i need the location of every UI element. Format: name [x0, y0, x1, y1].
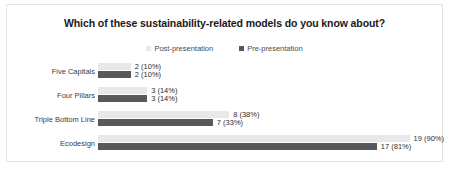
bar-group-five-capitals: 2 (10%) 2 (10%) [98, 59, 442, 83]
bar-post-four-pillars[interactable] [98, 87, 147, 94]
bar-line-pre-four-pillars: 3 (14%) [98, 95, 177, 102]
category-label-five-capitals: Five Capitals [7, 59, 95, 83]
legend-item-post-presentation[interactable]: Post-presentation [146, 44, 213, 53]
chart-legend: Post-presentation Pre-presentation [7, 44, 442, 53]
chart-title: Which of these sustainability-related mo… [7, 17, 442, 29]
legend-item-pre-presentation[interactable]: Pre-presentation [239, 44, 302, 53]
bar-line-post-five-capitals: 2 (10%) [98, 63, 161, 70]
bar-post-five-capitals[interactable] [98, 63, 131, 70]
legend-swatch-post-presentation [146, 46, 151, 51]
chart-row-triple-bottom-line: Triple Bottom Line 8 (38%) 7 (33%) [7, 107, 442, 131]
chart-container: Which of these sustainability-related mo… [6, 4, 443, 162]
bar-value-post-ecodesign: 19 (90%) [414, 135, 444, 142]
bar-pre-five-capitals[interactable] [98, 71, 131, 78]
bar-line-post-ecodesign: 19 (90%) [98, 135, 444, 142]
chart-row-four-pillars: Four Pillars 3 (14%) 3 (14%) [7, 83, 442, 107]
bar-line-pre-five-capitals: 2 (10%) [98, 71, 161, 78]
chart-row-ecodesign: Ecodesign 19 (90%) 17 (81%) [7, 131, 442, 155]
legend-label-pre-presentation: Pre-presentation [247, 44, 302, 53]
bar-group-ecodesign: 19 (90%) 17 (81%) [98, 131, 442, 155]
bar-value-pre-ecodesign: 17 (81%) [381, 143, 411, 150]
category-label-triple-bottom-line: Triple Bottom Line [7, 107, 95, 131]
bar-line-pre-triple-bottom-line: 7 (33%) [98, 119, 243, 126]
bar-line-post-four-pillars: 3 (14%) [98, 87, 177, 94]
chart-plot-area: Five Capitals 2 (10%) 2 (10%) Four Pilla… [7, 59, 442, 155]
bar-post-ecodesign[interactable] [98, 135, 410, 142]
bar-group-four-pillars: 3 (14%) 3 (14%) [98, 83, 442, 107]
bar-line-post-triple-bottom-line: 8 (38%) [98, 111, 259, 118]
bar-value-pre-five-capitals: 2 (10%) [135, 71, 161, 78]
bar-line-pre-ecodesign: 17 (81%) [98, 143, 411, 150]
bar-pre-ecodesign[interactable] [98, 143, 377, 150]
legend-label-post-presentation: Post-presentation [154, 44, 213, 53]
bar-value-post-four-pillars: 3 (14%) [151, 87, 177, 94]
bar-pre-triple-bottom-line[interactable] [98, 119, 213, 126]
bar-value-post-five-capitals: 2 (10%) [135, 63, 161, 70]
category-label-ecodesign: Ecodesign [7, 131, 95, 155]
bar-value-pre-four-pillars: 3 (14%) [151, 95, 177, 102]
bar-group-triple-bottom-line: 8 (38%) 7 (33%) [98, 107, 442, 131]
bar-value-pre-triple-bottom-line: 7 (33%) [217, 119, 243, 126]
legend-swatch-pre-presentation [239, 46, 244, 51]
chart-row-five-capitals: Five Capitals 2 (10%) 2 (10%) [7, 59, 442, 83]
category-label-four-pillars: Four Pillars [7, 83, 95, 107]
bar-value-post-triple-bottom-line: 8 (38%) [233, 111, 259, 118]
bar-pre-four-pillars[interactable] [98, 95, 147, 102]
bar-post-triple-bottom-line[interactable] [98, 111, 229, 118]
